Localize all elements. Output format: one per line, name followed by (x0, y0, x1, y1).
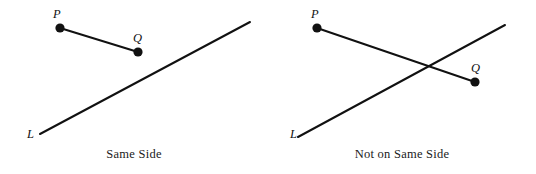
caption-same-side: Same Side (0, 147, 268, 162)
point-P-label-same-side: P (53, 8, 61, 21)
point-P-dot-same-side (55, 23, 64, 32)
point-P-label-not-same-side: P (311, 8, 319, 21)
point-Q-label-not-same-side: Q (471, 62, 480, 75)
line-L-same-side (40, 22, 250, 134)
point-Q-dot-not-same-side (470, 77, 479, 86)
point-Q-label-same-side: Q (133, 32, 142, 45)
panel-same-side: P Q L Same Side (0, 0, 268, 174)
segment-PQ-same-side (60, 28, 138, 52)
geometry-figure: P Q L Same Side P Q L Not on Same Side (0, 0, 536, 174)
line-L-label-same-side: L (27, 128, 34, 141)
caption-not-same-side: Not on Same Side (268, 147, 536, 162)
panel-not-same-side: P Q L Not on Same Side (268, 0, 536, 174)
line-L-label-not-same-side: L (290, 128, 297, 141)
point-P-dot-not-same-side (312, 23, 321, 32)
point-Q-dot-same-side (133, 47, 142, 56)
